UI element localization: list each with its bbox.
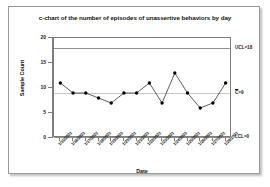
data-point bbox=[148, 81, 151, 84]
x-axis-title: Date bbox=[53, 168, 231, 174]
y-tick-label-10: 10 bbox=[28, 84, 46, 90]
y-tick-0 bbox=[48, 137, 52, 138]
chart-frame: c-chart of the number of episodes of una… bbox=[8, 6, 260, 174]
chart-title: c-chart of the number of episodes of una… bbox=[9, 14, 261, 21]
chart-screenshot: c-chart of the number of episodes of una… bbox=[0, 0, 270, 187]
ucl-annotation: UCL=18 bbox=[235, 45, 252, 50]
series-markers bbox=[59, 71, 228, 109]
y-tick-label-0: 0 bbox=[28, 134, 46, 140]
y-tick-20 bbox=[48, 37, 52, 38]
y-tick-label-15: 15 bbox=[28, 59, 46, 65]
y-tick-label-5: 5 bbox=[28, 109, 46, 115]
data-point bbox=[110, 101, 113, 104]
data-point bbox=[97, 96, 100, 99]
data-point bbox=[186, 91, 189, 94]
y-tick-5 bbox=[48, 112, 52, 113]
data-point bbox=[135, 91, 138, 94]
data-point bbox=[224, 81, 227, 84]
data-point bbox=[84, 91, 87, 94]
y-axis-title: Sample Count bbox=[19, 48, 25, 108]
center-line-value: =9 bbox=[238, 90, 243, 95]
data-series bbox=[54, 38, 232, 138]
data-point bbox=[199, 106, 202, 109]
data-point bbox=[211, 101, 214, 104]
lcl-annotation: LCL=0 bbox=[235, 134, 249, 139]
data-point bbox=[173, 71, 176, 74]
data-point bbox=[71, 91, 74, 94]
y-tick-10 bbox=[48, 87, 52, 88]
data-point bbox=[122, 91, 125, 94]
plot-area bbox=[53, 37, 231, 137]
y-tick-label-20: 20 bbox=[28, 34, 46, 40]
data-point bbox=[59, 81, 62, 84]
data-point bbox=[160, 101, 163, 104]
series-line bbox=[60, 73, 225, 108]
y-tick-15 bbox=[48, 62, 52, 63]
center-line-annotation: C=9 bbox=[235, 90, 244, 95]
